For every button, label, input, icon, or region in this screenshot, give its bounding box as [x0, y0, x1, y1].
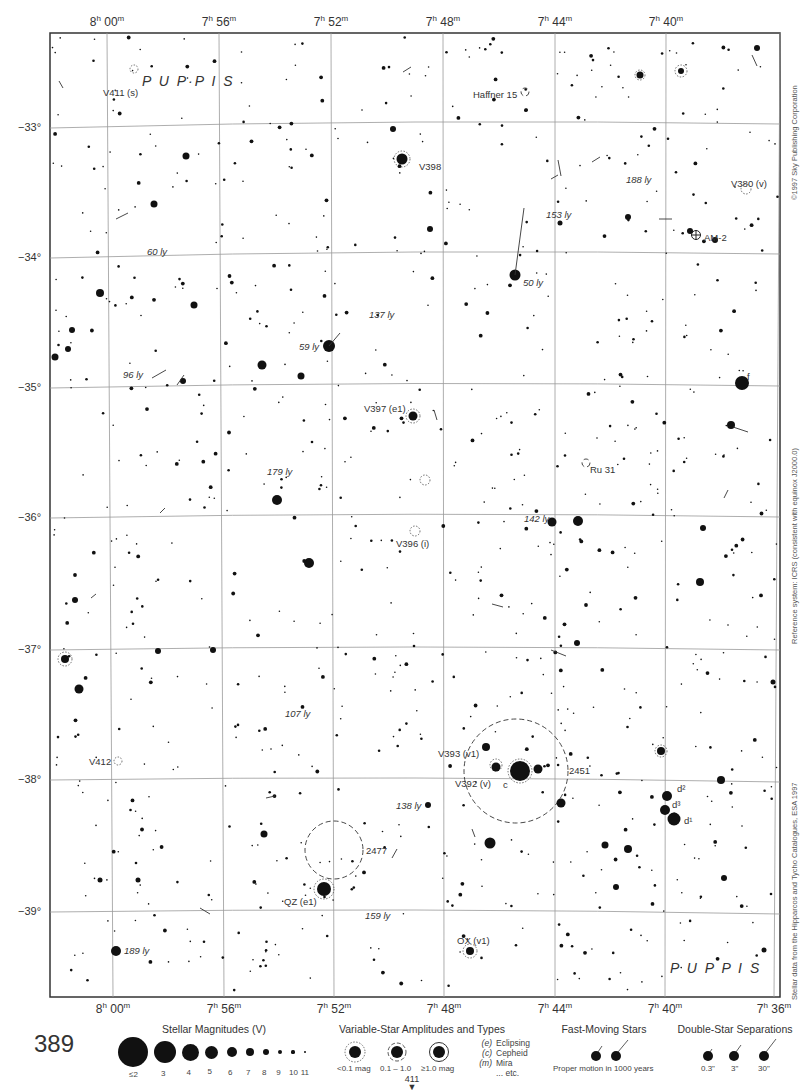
- magnitude-label: 9: [276, 1068, 280, 1077]
- magnitude-dot: [227, 1047, 237, 1057]
- magnitude-dot: [154, 1041, 176, 1063]
- object-label: c: [503, 779, 508, 790]
- object-label: Haffner 15: [473, 89, 517, 100]
- magnitude-dot: [263, 1049, 269, 1055]
- object-label: V397 (e1): [364, 403, 406, 414]
- object-label: QZ (e1): [284, 896, 317, 907]
- object-label: d³: [672, 799, 680, 810]
- object-label: d²: [677, 783, 685, 794]
- dec-label: −36°: [18, 511, 41, 523]
- magnitude-dot: [182, 1044, 199, 1061]
- object-label: V411 (s): [103, 87, 138, 98]
- magnitude-label: 10: [289, 1068, 298, 1077]
- double-sep-3: 30": [758, 1064, 770, 1073]
- dec-label: −38°: [18, 773, 41, 785]
- distance-label: 189 ly: [124, 945, 149, 956]
- fast-moving-caption: Proper motion in 1000 years: [553, 1064, 654, 1073]
- magnitude-dot: [118, 1037, 148, 1067]
- double-sep-2: 3": [731, 1064, 738, 1073]
- distance-label: 59 ly: [299, 341, 319, 352]
- object-label: V398: [419, 161, 441, 172]
- object-label: V393 (v1): [438, 748, 479, 759]
- dec-label: −34°: [18, 251, 41, 263]
- object-label: Ru 31: [590, 464, 615, 475]
- magnitude-label: 6: [228, 1068, 232, 1077]
- top-ra-label: 7h 44m: [538, 14, 573, 29]
- object-label: d¹: [684, 815, 692, 826]
- cluster-markers: [305, 88, 590, 879]
- variable-type-item: (c)Cepheid: [470, 1048, 528, 1058]
- object-label: V392 (v): [455, 778, 491, 789]
- object-label: V380 (v): [731, 178, 767, 189]
- distance-label: 96 ly: [123, 369, 143, 380]
- top-ra-label: 7h 40m: [649, 14, 684, 29]
- bottom-ra-label: 7h 44m: [538, 1001, 573, 1016]
- top-ra-label: 8h 00m: [90, 14, 125, 29]
- constellation-label: P U P·P I S: [142, 73, 235, 89]
- variables-legend-title: Variable-Star Amplitudes and Types: [339, 1023, 505, 1035]
- bottom-ra-label: 8h 00m: [96, 1001, 131, 1016]
- distance-label: 60 ly: [147, 246, 167, 257]
- page-number: 389: [34, 1030, 74, 1058]
- next-page-link[interactable]: 411 ▼: [397, 1074, 427, 1090]
- distance-label: 142 ly: [524, 513, 549, 524]
- magnitude-label: 3: [161, 1069, 165, 1078]
- magnitude-label: 5: [208, 1067, 212, 1076]
- object-label: 2477: [366, 845, 387, 856]
- variable-type-item: ... etc.: [470, 1068, 519, 1078]
- top-ra-label: 7h 56m: [202, 14, 237, 29]
- distance-label: 50 ly: [523, 277, 543, 288]
- object-label: V412: [89, 756, 111, 767]
- distance-label: 138 ly: [396, 800, 421, 811]
- chart-frame: [50, 33, 780, 997]
- fast-moving-legend-title: Fast-Moving Stars: [561, 1023, 646, 1035]
- distance-label: 179 ly: [267, 466, 292, 477]
- magnitudes-legend-title: Stellar Magnitudes (V): [162, 1023, 266, 1035]
- arrow-down-icon: ▼: [397, 1084, 427, 1090]
- magnitude-dot: [246, 1048, 254, 1056]
- magnitude-dot: [304, 1051, 306, 1053]
- magnitude-label: ≤2: [129, 1070, 138, 1079]
- top-ra-label: 7h 52m: [314, 14, 349, 29]
- dec-label: −39°: [18, 905, 41, 917]
- distance-label: 153 ly: [546, 209, 571, 220]
- variable-type-item: (m)Mira: [470, 1058, 513, 1068]
- distance-label: 159 ly: [365, 910, 390, 921]
- copyright-note: ©1997 Sky Publishing Corporation: [790, 85, 799, 200]
- magnitude-label: 4: [187, 1068, 191, 1077]
- bottom-ra-label: 7h 56m: [207, 1001, 242, 1016]
- amplitude-label-1: <0.1 mag: [337, 1064, 371, 1073]
- distance-label: 137 ly: [369, 309, 394, 320]
- distance-label: 107 ly: [285, 708, 310, 719]
- ru-31-outline[interactable]: [582, 459, 590, 467]
- magnitude-dot: [291, 1050, 294, 1053]
- dec-label: −33°: [18, 121, 41, 133]
- object-label: AM-2: [704, 232, 727, 243]
- bottom-ra-label: 7h 40m: [648, 1001, 683, 1016]
- doubles-legend-title: Double-Star Separations: [678, 1023, 793, 1035]
- magnitude-dot: [205, 1046, 218, 1059]
- dec-label: −35°: [18, 381, 41, 393]
- object-label: 2451: [569, 765, 590, 776]
- magnitude-label: 11: [301, 1068, 309, 1077]
- distance-label: 188 ly: [626, 174, 651, 185]
- bottom-ra-label: 7h 36m: [757, 1001, 792, 1016]
- magnitude-label: 7: [246, 1068, 250, 1077]
- object-label: OX (v1): [457, 935, 490, 946]
- amplitude-label-3: ≥1.0 mag: [421, 1064, 454, 1073]
- bottom-ra-label: 7h 48m: [427, 1001, 462, 1016]
- data-source-note: Stellar data from the Hipparcos and Tych…: [790, 783, 799, 1001]
- variable-type-item: (e)Eclipsing: [470, 1038, 530, 1048]
- constellation-label: P U P P I S: [670, 960, 761, 976]
- stars: [52, 45, 776, 956]
- reference-system-note: Reference system: ICRS (consistent with …: [790, 448, 799, 644]
- double-sep-1: 0.3": [701, 1064, 715, 1073]
- bottom-ra-label: 7h 52m: [317, 1001, 352, 1016]
- amplitude-label-2: 0.1 – 1.0: [380, 1064, 411, 1073]
- object-label: f: [747, 371, 750, 382]
- dec-label: −37°: [18, 643, 41, 655]
- faint-stars: [52, 36, 779, 992]
- top-ra-label: 7h 48m: [426, 14, 461, 29]
- magnitude-label: 8: [262, 1068, 266, 1077]
- proper-motion-vectors: [59, 55, 757, 914]
